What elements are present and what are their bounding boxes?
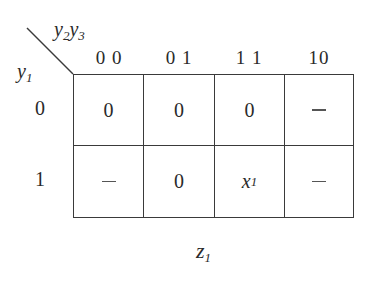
title-sub: 1 xyxy=(205,250,212,265)
col-var-2-sub: 3 xyxy=(78,28,85,43)
col-var-2: y xyxy=(69,18,78,40)
map-title: z1 xyxy=(196,238,211,266)
cell-0-01: 0 xyxy=(144,75,215,146)
col-var-1: y xyxy=(54,18,63,40)
col-label-00: 0 0 xyxy=(74,47,144,69)
karnaugh-map-grid: 0 0 0 0 x1 xyxy=(73,74,354,218)
col-label-11: 1 1 xyxy=(214,47,284,69)
row-label-1: 1 xyxy=(30,168,50,191)
cell-0-11: 0 xyxy=(215,75,285,146)
cell-0-10-dont-care xyxy=(285,75,353,146)
cell-1-00-dont-care xyxy=(74,146,144,217)
dont-care-dash xyxy=(102,181,116,183)
dont-care-dash xyxy=(312,109,326,111)
cell-0-00: 0 xyxy=(74,75,144,146)
cell-1-01: 0 xyxy=(144,146,215,217)
row-var-sub: 1 xyxy=(26,70,33,85)
cell-1-10-dont-care xyxy=(285,146,353,217)
col-label-01: 0 1 xyxy=(144,47,214,69)
title-var: z xyxy=(196,238,205,263)
col-label-10: 10 xyxy=(284,47,354,69)
cell-1-11: x1 xyxy=(215,146,285,217)
cell-x-var: x xyxy=(242,170,251,193)
row-label-0: 0 xyxy=(30,97,50,120)
cell-x-sub: 1 xyxy=(251,174,258,190)
column-variables-label: y2y3 xyxy=(54,18,85,44)
row-var: y xyxy=(17,60,26,82)
row-variable-label: y1 xyxy=(17,60,32,86)
dont-care-dash xyxy=(312,181,326,183)
